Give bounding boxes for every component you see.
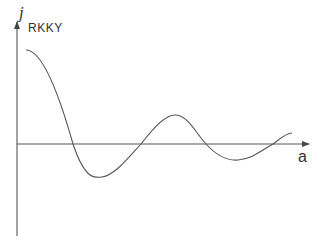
plot-canvas: [0, 0, 324, 251]
y-axis-label-subscript: RKKY: [28, 21, 63, 35]
rkky-curve: [26, 50, 292, 177]
rkky-diagram: j RKKY a: [0, 0, 324, 251]
y-axis-label: j: [19, 3, 24, 23]
x-axis-label: a: [298, 148, 307, 166]
